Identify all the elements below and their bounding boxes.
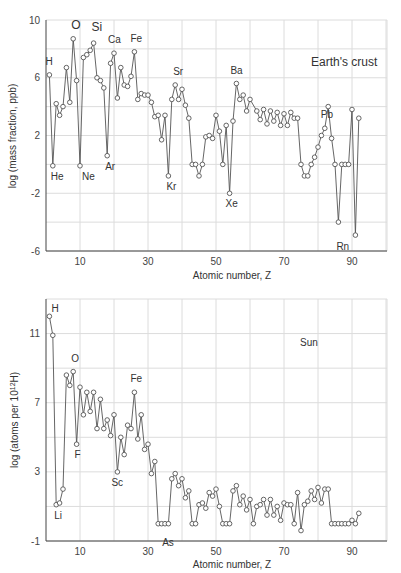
data-point bbox=[200, 501, 205, 506]
data-point bbox=[299, 162, 304, 167]
data-point bbox=[353, 521, 358, 526]
data-point bbox=[102, 426, 107, 431]
data-point bbox=[275, 504, 280, 509]
data-point bbox=[299, 528, 304, 533]
svg-text:7: 7 bbox=[34, 397, 40, 408]
data-point bbox=[221, 162, 226, 167]
data-point bbox=[176, 97, 181, 102]
data-point bbox=[119, 65, 124, 70]
data-point bbox=[285, 123, 290, 128]
data-point bbox=[326, 487, 331, 492]
svg-text:70: 70 bbox=[278, 546, 290, 557]
element-label-fe: Fe bbox=[130, 33, 142, 44]
data-point bbox=[210, 494, 215, 499]
data-point bbox=[149, 471, 154, 476]
data-point bbox=[136, 437, 141, 442]
data-point bbox=[85, 390, 90, 395]
data-point bbox=[224, 123, 229, 128]
element-label-kr: Kr bbox=[166, 181, 177, 192]
data-point bbox=[278, 518, 283, 523]
data-point bbox=[88, 48, 93, 53]
data-point bbox=[312, 155, 317, 160]
data-point bbox=[295, 490, 300, 495]
element-label-as: As bbox=[162, 537, 174, 548]
data-point bbox=[316, 145, 321, 150]
data-point bbox=[108, 61, 113, 66]
data-point bbox=[234, 81, 239, 86]
data-point bbox=[105, 418, 110, 423]
data-point bbox=[132, 390, 137, 395]
data-point bbox=[173, 83, 178, 88]
data-point bbox=[241, 494, 246, 499]
data-point bbox=[265, 513, 270, 518]
data-point bbox=[132, 50, 137, 55]
data-point bbox=[244, 508, 249, 513]
data-point bbox=[248, 497, 253, 502]
data-point bbox=[170, 97, 175, 102]
data-point bbox=[217, 129, 222, 134]
data-point bbox=[306, 499, 311, 504]
data-point bbox=[125, 84, 130, 89]
grid-lines bbox=[46, 299, 387, 541]
earth-crust-chart: 1030507090-6-22610 HHeONeSiArCaFeKrSrXeB… bbox=[7, 15, 387, 282]
data-point bbox=[238, 97, 243, 102]
data-point bbox=[231, 489, 236, 494]
data-point bbox=[180, 477, 185, 482]
svg-text:90: 90 bbox=[346, 256, 358, 267]
data-point bbox=[98, 397, 103, 402]
data-point bbox=[306, 174, 311, 179]
svg-text:30: 30 bbox=[142, 256, 154, 267]
svg-text:70: 70 bbox=[278, 256, 290, 267]
data-point bbox=[119, 435, 124, 440]
data-point bbox=[54, 101, 59, 106]
x-axis-label: Atomic number, Z bbox=[193, 270, 271, 281]
element-label-ar: Ar bbox=[105, 161, 116, 172]
svg-text:-1: -1 bbox=[31, 536, 40, 547]
data-point bbox=[227, 191, 232, 196]
svg-text:6: 6 bbox=[34, 72, 40, 83]
data-point bbox=[326, 104, 331, 109]
data-point bbox=[176, 483, 181, 488]
data-point bbox=[254, 109, 259, 114]
data-point bbox=[173, 471, 178, 476]
y-axis-label: log (atoms per 1012H) bbox=[9, 372, 21, 468]
svg-text:2: 2 bbox=[34, 130, 40, 141]
element-label-h: H bbox=[51, 303, 58, 314]
data-point bbox=[231, 119, 236, 124]
data-point bbox=[170, 477, 175, 482]
data-point bbox=[272, 119, 277, 124]
data-point bbox=[129, 426, 134, 431]
data-point bbox=[136, 97, 141, 102]
data-point bbox=[85, 52, 90, 57]
data-point bbox=[333, 162, 338, 167]
data-point bbox=[261, 497, 266, 502]
element-label-sc: Sc bbox=[111, 477, 123, 488]
x-axis-label: Atomic number, Z bbox=[193, 559, 271, 570]
data-point bbox=[353, 233, 358, 238]
data-point bbox=[88, 409, 93, 414]
data-point bbox=[289, 110, 294, 115]
svg-text:10: 10 bbox=[29, 15, 41, 26]
data-point bbox=[163, 113, 168, 118]
data-point bbox=[295, 116, 300, 121]
data-point bbox=[146, 442, 151, 447]
data-point bbox=[112, 413, 117, 418]
data-point bbox=[71, 369, 76, 374]
data-point bbox=[309, 162, 314, 167]
data-point bbox=[91, 41, 96, 46]
data-point bbox=[241, 93, 246, 98]
data-point bbox=[47, 314, 52, 319]
data-point bbox=[112, 51, 117, 56]
element-label-xe: Xe bbox=[226, 198, 239, 209]
data-point bbox=[357, 116, 362, 121]
data-point bbox=[268, 497, 273, 502]
svg-text:90: 90 bbox=[346, 546, 358, 557]
data-point bbox=[57, 501, 62, 506]
svg-text:10: 10 bbox=[74, 256, 86, 267]
element-label-li: Li bbox=[54, 510, 62, 521]
data-point bbox=[156, 113, 161, 118]
element-abundance-charts: 1030507090-6-22610 HHeONeSiArCaFeKrSrXeB… bbox=[0, 0, 401, 573]
data-point bbox=[336, 220, 341, 225]
data-point bbox=[139, 413, 144, 418]
data-point bbox=[244, 109, 249, 114]
